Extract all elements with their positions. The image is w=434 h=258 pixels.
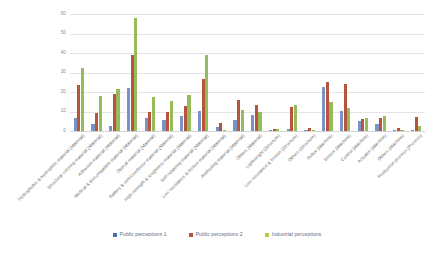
y-tick-label: 40 — [50, 51, 66, 56]
bar — [170, 101, 173, 131]
legend-item[interactable]: Public perceptions 1 — [113, 232, 167, 237]
bar-group — [230, 14, 248, 131]
bar-group — [106, 14, 124, 131]
bar-group — [248, 14, 266, 131]
legend-item[interactable]: Public perceptions 2 — [189, 232, 243, 237]
bar — [116, 89, 119, 131]
plot-area — [70, 14, 425, 131]
legend-label: Public perceptions 2 — [196, 232, 243, 237]
bar — [241, 110, 244, 131]
bar-group — [123, 14, 141, 131]
y-tick-label: 0 — [50, 129, 66, 134]
bar-group — [283, 14, 301, 131]
bar-group — [194, 14, 212, 131]
y-axis: 0102030405060 — [50, 14, 66, 131]
chart-legend: Public perceptions 1Public perceptions 2… — [0, 232, 434, 237]
y-tick-label: 20 — [50, 90, 66, 95]
bar-group — [354, 14, 372, 131]
bar — [205, 55, 208, 131]
bar — [383, 116, 386, 131]
bar-group — [301, 14, 319, 131]
bar-group — [372, 14, 390, 131]
bar — [347, 108, 350, 131]
legend-label: Public perceptions 1 — [120, 232, 167, 237]
bar — [187, 95, 190, 131]
legend-swatch-icon — [113, 233, 117, 237]
x-tick-label: Hydrophobic & hydrophilic material (Mate… — [17, 133, 86, 202]
x-tick-label: High strength & toughness material (Mate… — [123, 133, 192, 202]
bar — [134, 18, 137, 131]
bar — [99, 96, 102, 131]
y-tick-label: 50 — [50, 31, 66, 36]
x-axis-category-labels: Hydrophobic & hydrophilic material (Mate… — [70, 131, 425, 231]
bar-group — [336, 14, 354, 131]
y-tick-label: 10 — [50, 109, 66, 114]
legend-swatch-icon — [265, 233, 269, 237]
legend-swatch-icon — [189, 233, 193, 237]
bar-group — [88, 14, 106, 131]
bar — [258, 112, 261, 131]
bar — [294, 105, 297, 131]
bar-group — [407, 14, 425, 131]
legend-item[interactable]: Industrial perceptions — [265, 232, 322, 237]
bar-group — [390, 14, 408, 131]
bar — [152, 97, 155, 131]
bar-group — [70, 14, 88, 131]
bar-group — [212, 14, 230, 131]
bar-group — [159, 14, 177, 131]
bar-group — [141, 14, 159, 131]
y-tick-label: 60 — [50, 12, 66, 17]
y-tick-label: 30 — [50, 70, 66, 75]
bar-group — [177, 14, 195, 131]
bar — [81, 68, 84, 131]
bar-groups — [70, 14, 425, 131]
bar-group — [265, 14, 283, 131]
bar — [329, 102, 332, 131]
bar — [365, 118, 368, 131]
bar-chart: 0102030405060 Hydrophobic & hydrophilic … — [0, 0, 434, 258]
legend-label: Industrial perceptions — [272, 232, 322, 237]
bar-group — [319, 14, 337, 131]
